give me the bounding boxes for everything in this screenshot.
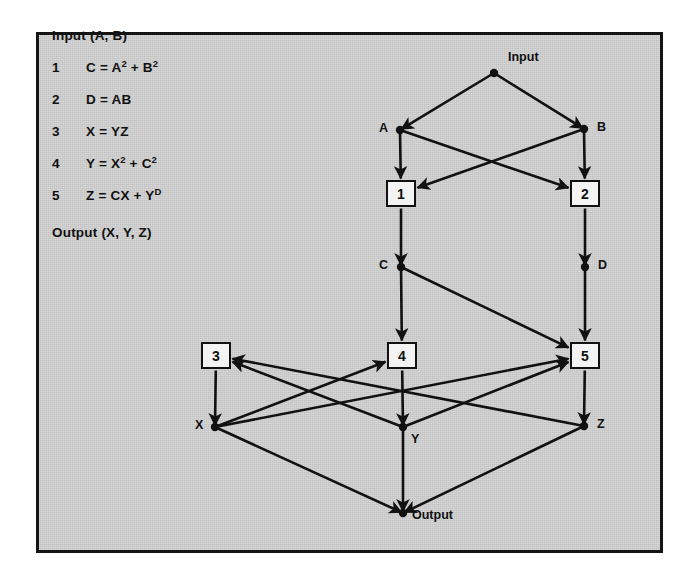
graph-edge-input-to-A (401, 73, 494, 129)
graph-edge-op5-to-Z (584, 371, 585, 425)
node-label-z: Z (597, 417, 605, 431)
graph-node-dot-X[interactable] (211, 423, 219, 431)
node-label-a: A (379, 121, 388, 135)
graph-node-dot-B[interactable] (580, 125, 588, 133)
graph-edge-Z-to-output (404, 426, 584, 512)
operation-box-4[interactable]: 4 (387, 342, 417, 369)
graph-edge-A-to-op1 (400, 130, 401, 179)
node-label-b: B (597, 120, 606, 134)
graph-node-dot-D[interactable] (581, 263, 589, 271)
operation-box-2[interactable]: 2 (570, 180, 600, 207)
node-label-d: D (598, 258, 607, 272)
graph-edge-input-to-B (494, 73, 583, 128)
graph-edge-B-to-op1 (418, 129, 585, 188)
graph-node-dot-output[interactable] (399, 509, 407, 517)
graph-edge-op4-to-Y (402, 371, 403, 426)
graph-node-dot-input[interactable] (490, 69, 498, 77)
node-label-output: Output (412, 508, 453, 522)
graph-node-dot-Z[interactable] (580, 422, 588, 430)
graph-node-dot-Y[interactable] (399, 423, 407, 431)
graph-edge-C-to-op4 (401, 267, 402, 341)
dataflow-graph (0, 0, 684, 585)
figure-page: Input (A, B) 1 C = A2 + B2 2 D = AB 3 X … (0, 0, 684, 585)
node-label-input: Input (508, 50, 539, 64)
graph-edge-A-to-op2 (400, 130, 569, 188)
graph-edge-op3-to-X (215, 371, 216, 426)
graph-edge-X-to-output (215, 427, 402, 512)
graph-node-dot-C[interactable] (397, 263, 405, 271)
operation-box-3[interactable]: 3 (201, 342, 231, 369)
operation-box-5[interactable]: 5 (570, 342, 600, 369)
graph-edge-B-to-op2 (584, 129, 585, 179)
node-label-x: X (195, 418, 203, 432)
node-label-c: C (379, 258, 388, 272)
operation-box-1[interactable]: 1 (386, 180, 416, 207)
node-label-y: Y (411, 432, 419, 446)
graph-node-dot-A[interactable] (396, 126, 404, 134)
graph-edge-C-to-op5 (401, 267, 569, 348)
